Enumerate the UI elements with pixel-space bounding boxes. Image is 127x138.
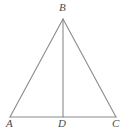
- vertex-label-d: D: [58, 118, 66, 129]
- side-AB-line: [10, 19, 63, 117]
- vertex-label-b: B: [59, 2, 66, 13]
- side-BC-line: [63, 19, 116, 117]
- vertex-label-c: C: [112, 118, 119, 129]
- vertex-label-a: A: [6, 118, 13, 129]
- geometry-figure: A B D C: [0, 0, 127, 138]
